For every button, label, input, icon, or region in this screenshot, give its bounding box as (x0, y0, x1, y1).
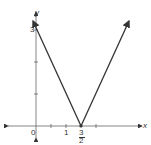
y-axis-label: y (35, 9, 39, 17)
graph-right-branch (81, 21, 129, 126)
graph-canvas (0, 0, 151, 145)
y-tick-label-3: 3 (30, 26, 34, 34)
x-axis-label: x (143, 122, 147, 130)
vertex-x-denominator: 2 (79, 137, 83, 145)
graph-left-branch (33, 21, 81, 126)
x-tick-label-1: 1 (64, 129, 68, 137)
origin-label: 0 (31, 129, 35, 137)
